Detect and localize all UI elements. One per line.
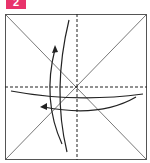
origami-diagram bbox=[0, 0, 150, 163]
